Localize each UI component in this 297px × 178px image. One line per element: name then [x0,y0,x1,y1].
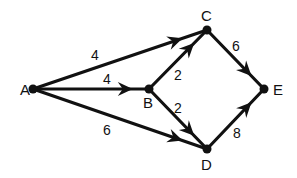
edge-weight-label: 6 [232,38,240,54]
node-D-dot [203,145,212,154]
node-label-D: D [201,156,212,173]
edge-weight-label: 4 [103,71,111,87]
node-label-C: C [201,7,212,24]
edge-weight-label: 4 [91,47,99,63]
edge-weight-label: 2 [174,67,182,83]
node-label-E: E [273,81,283,98]
node-label-A: A [20,81,30,98]
node-C-dot [203,26,212,35]
node-B-dot [145,85,154,94]
edge-A-D [33,89,207,149]
edge-weight-label: 2 [174,100,182,116]
node-E-dot [260,85,269,94]
weighted-directed-graph: 4462268ABCDE [0,0,297,178]
node-label-B: B [143,94,153,111]
edge-weight-label: 6 [103,122,111,138]
edge-weight-label: 8 [233,125,241,141]
